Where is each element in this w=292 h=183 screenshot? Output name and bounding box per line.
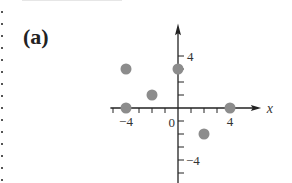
y-tick-label: 4 (187, 49, 194, 64)
data-point (173, 64, 184, 75)
data-point (199, 129, 210, 140)
x-tick-label: 4 (227, 114, 234, 129)
data-point (121, 64, 132, 75)
y-tick-label: −4 (186, 153, 200, 168)
scatter-plot: −444−40x (0, 0, 292, 183)
data-point (225, 103, 236, 114)
x-tick-label: −4 (119, 114, 133, 129)
data-point (147, 90, 158, 101)
x-axis-label: x (266, 101, 274, 116)
origin-label: 0 (169, 115, 176, 130)
data-point (121, 103, 132, 114)
